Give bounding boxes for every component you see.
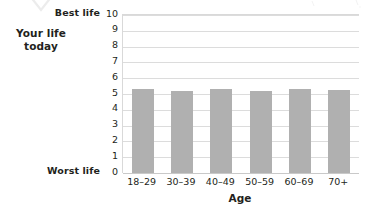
y-axis-tick-4: 4 [98, 103, 118, 113]
y-axis-top-annotation: Best life [36, 7, 100, 18]
chart-bars [123, 15, 359, 173]
bar-30–39 [171, 91, 193, 173]
y-axis-tick-8: 8 [98, 40, 118, 50]
bar-50–59 [250, 91, 272, 173]
y-axis-tick-6: 6 [98, 72, 118, 82]
bar-18–29 [132, 89, 154, 173]
y-axis-tick-3: 3 [98, 119, 118, 129]
decorative-top-artifacts [300, 0, 370, 10]
y-axis-tick-labels: 109876543210 [98, 0, 118, 214]
x-axis-tick-18–29: 18–29 [122, 176, 161, 188]
y-axis-tick-0: 0 [98, 167, 118, 177]
y-axis-bottom-annotation: Worst life [30, 165, 100, 176]
x-axis-tick-60–69: 60–69 [279, 176, 318, 188]
x-axis-tick-70+: 70+ [319, 176, 358, 188]
bar-60–69 [289, 89, 311, 173]
y-axis-tick-7: 7 [98, 56, 118, 66]
x-axis-title: Age [122, 192, 358, 204]
chart-plot-area [122, 14, 359, 173]
y-axis-tick-10: 10 [98, 9, 118, 19]
x-axis-tick-30–39: 30–39 [161, 176, 200, 188]
y-axis-tick-2: 2 [98, 135, 118, 145]
bar-70+ [328, 90, 350, 173]
y-axis-tick-9: 9 [98, 24, 118, 34]
bar-40–49 [210, 89, 232, 173]
y-axis-series-label: Your life today [2, 27, 80, 53]
x-axis-tick-40–49: 40–49 [201, 176, 240, 188]
y-axis-series-label-line2: today [2, 40, 80, 53]
y-axis-tick-1: 1 [98, 151, 118, 161]
y-axis-tick-5: 5 [98, 88, 118, 98]
gridline-0 [123, 173, 359, 174]
x-axis-tick-labels: 18–2930–3940–4950–5960–6970+ [122, 176, 358, 190]
x-axis-tick-50–59: 50–59 [240, 176, 279, 188]
y-axis-series-label-line1: Your life [2, 27, 80, 40]
